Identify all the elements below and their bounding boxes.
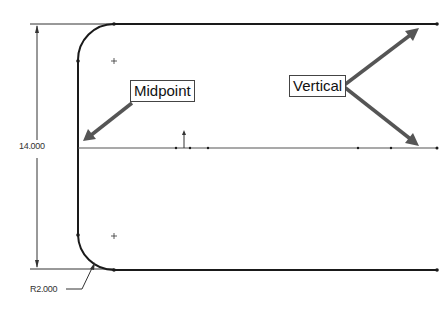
sketch-profile[interactable] (78, 24, 437, 270)
midpoint-callout: Midpoint (130, 80, 195, 102)
sketch-canvas (0, 0, 447, 310)
vertical-callout: Vertical (289, 75, 346, 97)
dimension-arrow-bottom-icon (35, 260, 39, 268)
height-dimension-value[interactable]: 14.000 (19, 141, 45, 151)
sketch-points (76, 22, 439, 272)
radius-dimension-value[interactable]: R2.000 (30, 284, 57, 294)
dimension-arrow-top-icon (35, 25, 39, 33)
